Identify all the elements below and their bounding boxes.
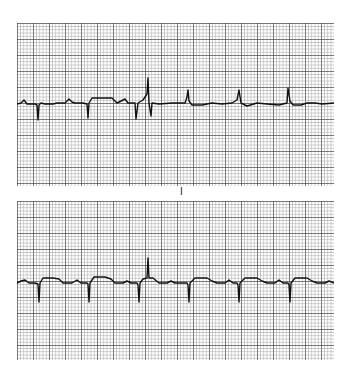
ecg-grid-bottom — [17, 201, 334, 360]
ecg-strip-bottom — [17, 201, 334, 360]
ecg-grid-top — [17, 23, 334, 186]
ecg-strip-top — [17, 23, 334, 186]
lead-label: I — [180, 186, 183, 198]
